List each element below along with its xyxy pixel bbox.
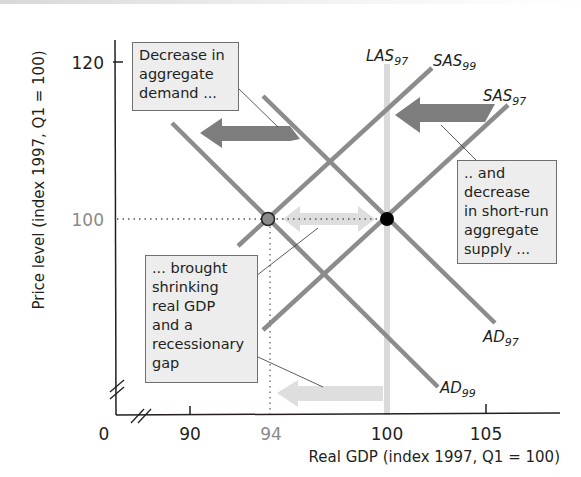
y-tick-label-100: 100 [72, 210, 104, 230]
gdp-shrink-arrow [277, 380, 383, 407]
note-decrease-demand: Decrease in aggregate demand ... [132, 42, 239, 111]
sas-shift-arrow [395, 97, 495, 133]
x-tick-label-94: 94 [260, 424, 282, 444]
label-ad99: AD99 [439, 379, 476, 400]
label-sas99: SAS99 [433, 52, 476, 73]
leader-result-2 [258, 357, 323, 387]
x-axis [116, 413, 560, 415]
x-tick-label-100: 100 [371, 424, 403, 444]
new-equilibrium-point [262, 213, 275, 226]
note-recessionary-gap: ... brought shrinking real GDP and a rec… [145, 255, 258, 383]
label-las97: LAS97 [366, 47, 408, 68]
y-axis-break-icon [110, 380, 124, 399]
y-tick-label-120: 120 [72, 53, 104, 73]
leader-supply [441, 125, 477, 161]
x-tick-label-90: 90 [179, 424, 201, 444]
label-ad97: AD97 [482, 328, 519, 349]
y-axis-title: Price level (index 1997, Q1 = 100) [30, 50, 48, 309]
x-tick-label-0: 0 [99, 424, 110, 444]
x-axis-title: Real GDP (index 1997, Q1 = 100) [309, 448, 560, 466]
gap-double-arrow [283, 206, 375, 232]
y-axis [115, 40, 116, 415]
x-axis-break-icon [131, 409, 151, 423]
ad-shift-arrow [200, 118, 300, 148]
label-sas97: SAS97 [483, 87, 526, 108]
initial-equilibrium-point [380, 212, 394, 226]
x-tick-label-105: 105 [470, 424, 502, 444]
note-decrease-supply: .. and decrease in short-run aggregate s… [457, 160, 557, 264]
